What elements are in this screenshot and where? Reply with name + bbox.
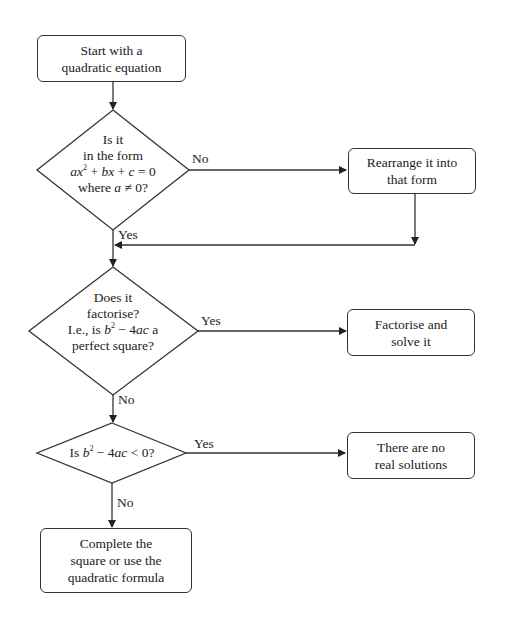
final-box: Complete the square or use the quadratic… xyxy=(40,528,192,593)
start-line1: Start with a xyxy=(80,42,142,59)
factorise-box: Factorise and solve it xyxy=(347,309,475,356)
rearrange-line2: that form xyxy=(387,171,437,188)
factorise-line2: solve it xyxy=(391,333,430,350)
decision3-yes-label: Yes xyxy=(194,436,214,452)
rearrange-box: Rearrange it into that form xyxy=(348,148,476,194)
final-line3: quadratic formula xyxy=(68,569,164,586)
decision1-no-label: No xyxy=(192,151,209,167)
decision-form-text: Is it in the form ax2 + bx + c = 0 where… xyxy=(47,132,179,196)
start-box: Start with a quadratic equation xyxy=(37,35,186,82)
decision2-line4: perfect square? xyxy=(48,338,178,354)
rearrange-line1: Rearrange it into xyxy=(367,154,458,171)
decision1-equation: ax2 + bx + c = 0 xyxy=(47,164,179,180)
decision1-line4: where a ≠ 0? xyxy=(47,180,179,196)
decision2-line1: Does it xyxy=(48,290,178,306)
final-line1: Complete the xyxy=(80,535,152,552)
decision-factorise-text: Does it factorise? I.e., is b2 − 4ac a p… xyxy=(48,290,178,354)
no-solutions-box: There are no real solutions xyxy=(347,432,475,479)
decision2-line2: factorise? xyxy=(48,306,178,322)
decision2-line3: I.e., is b2 − 4ac a xyxy=(48,322,178,338)
factorise-line1: Factorise and xyxy=(375,316,447,333)
final-line2: square or use the xyxy=(70,552,161,569)
decision3-no-label: No xyxy=(117,495,134,511)
decision2-no-label: No xyxy=(118,392,135,408)
decision1-line1: Is it xyxy=(47,132,179,148)
decision-discriminant-text: Is b2 − 4ac < 0? xyxy=(52,445,172,461)
start-line2: quadratic equation xyxy=(61,59,161,76)
decision2-yes-label: Yes xyxy=(201,313,221,329)
no-solutions-line1: There are no xyxy=(377,439,445,456)
no-solutions-line2: real solutions xyxy=(375,456,447,473)
decision1-yes-label: Yes xyxy=(118,227,138,243)
decision1-line2: in the form xyxy=(47,148,179,164)
